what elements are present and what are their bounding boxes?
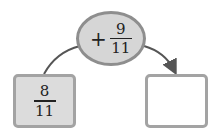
operation-ellipse: + 9 11: [76, 11, 146, 66]
start-fraction: 8 11: [34, 83, 56, 119]
operation-numerator: 9: [116, 21, 126, 37]
operation-denominator: 11: [111, 40, 130, 56]
connector-line-left: [44, 46, 80, 74]
result-answer-box[interactable]: [145, 74, 208, 128]
start-value-box: 8 11: [13, 74, 76, 128]
start-denominator: 11: [35, 103, 54, 119]
operation-fraction: 9 11: [110, 21, 132, 57]
arrow-right: [144, 46, 174, 70]
start-numerator: 8: [40, 83, 50, 99]
plus-operator: +: [90, 29, 107, 49]
